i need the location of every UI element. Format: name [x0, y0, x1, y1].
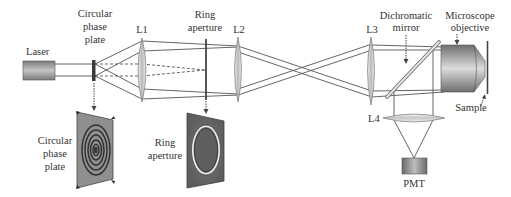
ring-aperture-label-line1: Ring — [195, 9, 216, 20]
circular-phase-plate — [92, 60, 96, 81]
ring-aperture-inset-label-line1: Ring — [155, 137, 176, 148]
lens-l3 — [368, 37, 375, 105]
phase-plate-label-line1: Circular — [78, 8, 113, 19]
lens-l4-label: L4 — [368, 113, 380, 124]
dichromatic-mirror-arrow-icon — [404, 59, 409, 64]
dichromatic-mirror-label-line2: mirror — [393, 22, 420, 33]
ring-aperture-inset — [187, 113, 224, 188]
pmt-detector — [402, 158, 427, 174]
phase-plate-inset-label-line1: Circular — [38, 135, 73, 146]
laser — [23, 61, 55, 80]
phase-plate-inset-label-line3: plate — [45, 161, 66, 172]
phase-plate-arrow-icon — [92, 106, 97, 111]
microscope-objective — [441, 45, 485, 92]
optical-diagram: Laser Circular phase plate L1 Ring apert… — [0, 0, 511, 197]
pmt-label: PMT — [403, 178, 425, 189]
lens-l1-label: L1 — [136, 24, 148, 35]
laser-label: Laser — [26, 46, 50, 57]
lens-l1 — [138, 38, 146, 102]
sample-label: Sample — [455, 102, 487, 113]
ring-aperture-inset-label-line2: aperture — [148, 150, 183, 161]
dichromatic-mirror-label-line1: Dichromatic — [380, 10, 433, 21]
lens-l2-label: L2 — [233, 24, 245, 35]
ring-aperture-arrow-icon — [204, 109, 209, 114]
lens-l4 — [383, 114, 445, 122]
objective-label-line2: objective — [451, 22, 490, 33]
phase-plate-inset — [76, 111, 115, 189]
lens-l3-label: L3 — [366, 24, 378, 35]
ring-aperture-label-line2: aperture — [188, 22, 223, 33]
sample-arrow-icon — [482, 94, 486, 99]
phase-plate-label-line3: plate — [85, 34, 106, 45]
objective-label-line1: Microscope — [445, 10, 495, 21]
objective-arrow-icon — [455, 40, 460, 45]
phase-plate-label-line2: phase — [83, 21, 107, 32]
phase-plate-inset-label-line2: phase — [43, 148, 67, 159]
